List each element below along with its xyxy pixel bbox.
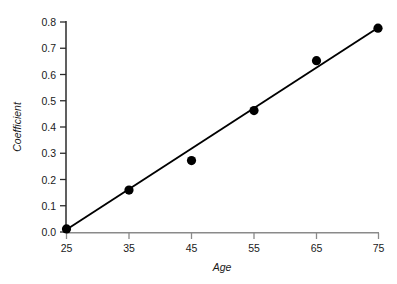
y-tick-label-1: 0.1 xyxy=(41,200,56,212)
data-point[interactable] xyxy=(312,56,321,65)
chart-container: 0.8 0.7 0.6 0.5 0.4 0.3 0.2 0.1 0.0 25 3… xyxy=(0,0,397,284)
scatter-plot: 0.8 0.7 0.6 0.5 0.4 0.3 0.2 0.1 0.0 25 3… xyxy=(0,0,397,284)
y-tick-label-6: 0.6 xyxy=(41,69,56,81)
y-tick-label-2: 0.2 xyxy=(41,174,56,186)
y-tick-label-5: 0.5 xyxy=(41,95,56,107)
fitted-regression-line xyxy=(67,28,378,230)
data-point[interactable] xyxy=(373,24,382,33)
data-point[interactable] xyxy=(249,106,258,115)
y-tick-label-3: 0.3 xyxy=(41,147,56,159)
y-tick-label-0: 0.0 xyxy=(41,226,56,238)
x-tick-label-2: 45 xyxy=(186,242,198,254)
y-tick-label-8: 0.8 xyxy=(41,16,56,28)
y-tick-label-7: 0.7 xyxy=(41,42,56,54)
y-tick-label-4: 0.4 xyxy=(41,121,56,133)
x-tick-label-1: 35 xyxy=(123,242,135,254)
x-tick-label-5: 75 xyxy=(373,242,385,254)
x-tick-label-3: 55 xyxy=(248,242,260,254)
x-axis-title: Age xyxy=(212,261,232,273)
x-tick-label-0: 25 xyxy=(61,242,73,254)
y-axis-title: Coefficient xyxy=(11,101,23,152)
data-point[interactable] xyxy=(62,224,71,233)
data-point[interactable] xyxy=(187,156,196,165)
x-axis-ticks xyxy=(67,233,379,239)
y-axis-ticks xyxy=(60,22,66,232)
data-point[interactable] xyxy=(124,186,133,195)
x-tick-label-4: 65 xyxy=(311,242,323,254)
